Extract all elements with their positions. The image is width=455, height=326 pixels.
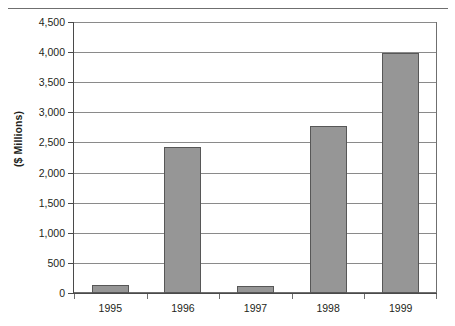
x-axis-tick-label-1995: 1995 <box>74 302 147 314</box>
y-axis-tick-label: 3,500 <box>20 77 65 87</box>
top-horizontal-rule <box>8 8 448 9</box>
x-axis-tick-mark <box>219 294 220 299</box>
bar-slot <box>364 22 437 293</box>
bar-1998[interactable] <box>310 126 347 293</box>
bar-slot <box>74 22 147 293</box>
y-axis-tick-label: 500 <box>20 258 65 268</box>
bar-chart-figure: ($ Millions) 4,5004,0003,5003,0002,5002,… <box>0 0 455 326</box>
x-axis-tick-marks <box>74 294 437 299</box>
y-axis-tick-label: 2,000 <box>20 168 65 178</box>
x-axis-tick-label-1998: 1998 <box>292 302 365 314</box>
x-axis-tick-label-1999: 1999 <box>364 302 437 314</box>
bar-1995[interactable] <box>92 285 129 293</box>
x-axis-tick-label-1996: 1996 <box>147 302 220 314</box>
y-axis-tick-labels: 4,5004,0003,5003,0002,5002,0001,5001,000… <box>20 22 65 293</box>
y-axis-tick-label: 0 <box>20 288 65 298</box>
bar-1999[interactable] <box>382 53 419 293</box>
bar-1997[interactable] <box>237 286 274 293</box>
bar-slot <box>219 22 292 293</box>
x-axis-tick-label-1997: 1997 <box>219 302 292 314</box>
y-axis-tick-label: 1,000 <box>20 228 65 238</box>
y-axis-tick-label: 4,000 <box>20 47 65 57</box>
x-axis-tick-mark <box>74 294 75 299</box>
x-axis-tick-mark <box>364 294 365 299</box>
bar-slot <box>292 22 365 293</box>
x-axis-tick-mark <box>292 294 293 299</box>
bar-1996[interactable] <box>164 147 201 293</box>
x-axis-tick-mark <box>147 294 148 299</box>
bar-slot <box>147 22 220 293</box>
y-axis-tick-label: 4,500 <box>20 17 65 27</box>
x-axis-tick-labels: 19951996199719981999 <box>74 302 437 314</box>
y-axis-tick-label: 3,000 <box>20 107 65 117</box>
bars-layer <box>74 22 437 293</box>
y-axis-tick-label: 1,500 <box>20 198 65 208</box>
x-axis-tick-mark <box>436 294 437 299</box>
y-axis-tick-label: 2,500 <box>20 137 65 147</box>
